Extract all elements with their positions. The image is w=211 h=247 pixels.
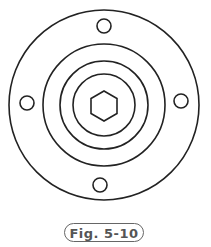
figure-caption: Fig. 5-10	[64, 223, 144, 242]
ring-4	[73, 74, 135, 136]
outer-flange-circle	[9, 10, 199, 200]
flange-diagram	[0, 0, 211, 247]
bolt-hole-bottom	[93, 178, 107, 192]
bolt-hole-top	[97, 19, 111, 33]
bolt-hole-right	[174, 94, 188, 108]
bolt-hole-left	[20, 96, 34, 110]
ring-2	[43, 44, 165, 166]
hex-socket	[91, 91, 117, 121]
